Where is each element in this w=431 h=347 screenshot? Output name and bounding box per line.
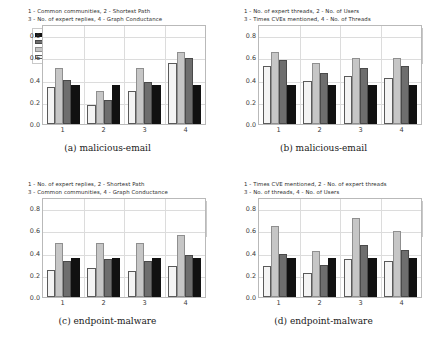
bar-f1 [185,58,193,124]
panel-caption-c: (c) endpoint-malware [0,316,215,326]
figure-grouped-bar-charts: 1 - Common communities, 2 - Shortest Pat… [0,0,431,347]
bar-f1 [104,259,112,297]
bar-recall [312,63,320,124]
bar-f1 [401,66,409,124]
y-tick-label: 0.6 [30,227,40,235]
bar-group [300,26,341,124]
bar-random-f1 [409,258,417,297]
y-tick-label: 0.6 [246,227,256,235]
plot-area-b: 0.00.20.40.60.81234 [232,25,424,138]
y-tick-label: 0.6 [246,54,256,62]
y-tick-label: 0.2 [246,99,256,107]
panel-d: 1 - Times CVE mentioned, 2 - No. of expe… [216,173,431,346]
bar-random-f1 [112,85,120,124]
bar-random-f1 [152,258,160,297]
plot-box-a [42,25,206,125]
x-tick-label: 1 [258,126,299,138]
bar-recall [312,251,320,297]
x-tick-label: 4 [381,126,422,138]
bar-recall [271,52,279,124]
y-tick-label: 0.8 [30,205,40,213]
bar-groups-a [43,26,205,124]
x-tick-label: 1 [42,299,83,311]
bar-recall [55,68,63,124]
y-tick-label: 0.0 [246,121,256,129]
y-tick-label: 0.0 [30,294,40,302]
bar-group [259,26,300,124]
bar-random-f1 [71,85,79,124]
bar-precision [87,268,95,297]
x-axis-b: 1234 [258,126,422,138]
bar-f1 [401,250,409,297]
y-axis-d: 0.00.20.40.60.8 [232,198,258,298]
panel-caption-b: (b) malicious-email [216,143,431,153]
x-tick-label: 3 [340,299,381,311]
bar-group [340,199,381,297]
x-axis-d: 1234 [258,299,422,311]
plot-box-b [258,25,422,125]
bar-random-f1 [328,258,336,297]
bar-group [300,199,341,297]
bar-recall [352,218,360,297]
panel-c: 1 - No. of expert replies, 2 - Shortest … [0,173,215,346]
bar-recall [393,58,401,124]
bar-f1 [279,60,287,124]
bar-random-f1 [368,258,376,297]
x-tick-label: 4 [165,299,206,311]
bar-recall [136,243,144,297]
bar-f1 [320,73,328,124]
bar-recall [55,243,63,297]
bar-precision [263,66,271,124]
bar-precision [128,271,136,297]
bar-f1 [320,265,328,297]
y-axis-a: 0.00.20.40.60.8 [16,25,42,125]
bar-f1 [144,82,152,124]
bar-group [165,199,206,297]
bar-groups-c [43,199,205,297]
bar-f1 [279,254,287,297]
bar-recall [136,68,144,124]
plot-area-c: 0.00.20.40.60.81234 [16,198,208,311]
bar-f1 [360,245,368,297]
bar-group [340,26,381,124]
bar-precision [47,270,55,297]
x-tick-label: 2 [83,126,124,138]
bar-f1 [185,255,193,297]
plot-box-d [258,198,422,298]
x-axis-c: 1234 [42,299,206,311]
bar-recall [96,243,104,297]
x-tick-label: 3 [340,126,381,138]
panel-key-text-b: 1 - No. of expert threads, 2 - No. of Us… [244,7,430,23]
y-tick-label: 0.4 [30,77,40,85]
bar-recall [393,231,401,297]
plot-area-d: 0.00.20.40.60.81234 [232,198,424,311]
bar-precision [263,266,271,297]
y-tick-label: 0.4 [246,77,256,85]
y-tick-label: 0.2 [30,99,40,107]
bar-precision [168,266,176,297]
panel-b: 1 - No. of expert threads, 2 - No. of Us… [216,0,431,173]
y-tick-label: 0.8 [246,32,256,40]
bar-group [381,199,422,297]
bar-recall [96,91,104,124]
x-axis-a: 1234 [42,126,206,138]
x-tick-label: 3 [124,299,165,311]
bar-random-f1 [193,85,201,124]
y-tick-label: 0.6 [30,54,40,62]
bar-f1 [63,80,71,124]
bar-recall [177,235,185,297]
bar-group [259,199,300,297]
bar-random-f1 [152,85,160,124]
x-tick-label: 4 [381,299,422,311]
panel-key-text-a: 1 - Common communities, 2 - Shortest Pat… [28,7,214,23]
bar-recall [177,52,185,124]
bar-precision [344,76,352,124]
bar-group [381,26,422,124]
bar-group [43,26,84,124]
plot-area-a: 0.00.20.40.60.81234 [16,25,208,138]
panel-key-text-d: 1 - Times CVE mentioned, 2 - No. of expe… [244,180,430,196]
y-tick-label: 0.8 [246,205,256,213]
y-tick-label: 0.4 [246,250,256,258]
bar-f1 [63,261,71,297]
bar-precision [384,78,392,124]
